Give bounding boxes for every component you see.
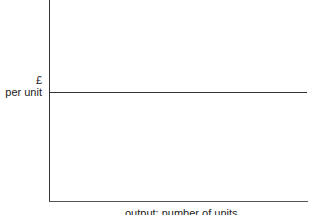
y-axis-label-currency: £: [5, 74, 42, 86]
y-axis-label: £ per unit: [5, 74, 42, 98]
x-axis: [49, 201, 308, 202]
x-axis-label: output: number of units: [125, 207, 238, 215]
y-axis-label-unit: per unit: [5, 86, 42, 98]
y-axis: [49, 0, 50, 202]
horizontal-level-line: [49, 92, 307, 93]
